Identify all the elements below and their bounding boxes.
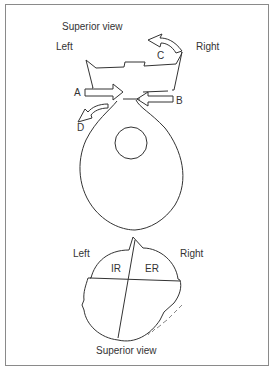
bottom-title: Superior view — [96, 346, 157, 356]
top-structure-outline — [86, 52, 182, 90]
top-right-label: Right — [196, 42, 219, 52]
arrow-d-icon — [78, 104, 108, 122]
arrow-a-label: A — [74, 88, 81, 98]
arrow-b-label: B — [176, 96, 183, 106]
diagonal-axis — [118, 240, 135, 338]
inner-circle — [115, 127, 147, 159]
arrow-b-icon — [137, 92, 173, 106]
arrow-c-label: C — [157, 51, 164, 61]
quadrant-er-label: ER — [145, 264, 159, 274]
horizontal-axis — [90, 278, 180, 281]
bottom-right-label: Right — [180, 249, 203, 259]
head-outline — [82, 237, 181, 341]
diagram-drawing — [0, 0, 275, 377]
arrow-c-icon — [148, 34, 182, 53]
arrow-d-label: D — [77, 123, 84, 133]
body-outline — [80, 100, 183, 230]
top-title: Superior view — [62, 22, 123, 32]
quadrant-ir-label: IR — [111, 264, 121, 274]
arrow-a-icon — [85, 84, 123, 100]
top-left-label: Left — [56, 42, 73, 52]
signature-icon — [148, 305, 182, 335]
bottom-left-label: Left — [73, 249, 90, 259]
